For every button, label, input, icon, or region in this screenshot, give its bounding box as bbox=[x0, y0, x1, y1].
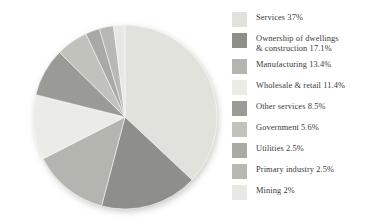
legend-swatch-icon bbox=[232, 101, 247, 116]
legend-item: Wholesale & retail 11.4% bbox=[232, 79, 375, 96]
legend-item-label: Manufacturing 13.4% bbox=[256, 58, 331, 70]
chart-legend: Services 37%Ownership of dwellings & con… bbox=[232, 0, 375, 222]
legend-item-label: Ownership of dwellings & construction 17… bbox=[256, 32, 339, 54]
pie-chart-svg bbox=[0, 0, 232, 222]
legend-swatch-icon bbox=[232, 122, 247, 137]
legend-swatch-icon bbox=[232, 59, 247, 74]
pie-chart-figure: Services 37%Ownership of dwellings & con… bbox=[0, 0, 375, 222]
legend-swatch-icon bbox=[232, 164, 247, 179]
legend-item-label: Services 37% bbox=[256, 11, 303, 23]
legend-item: Manufacturing 13.4% bbox=[232, 58, 375, 75]
legend-item-label: Mining 2% bbox=[256, 184, 295, 196]
legend-swatch-icon bbox=[232, 80, 247, 95]
pie-slice-group bbox=[33, 25, 217, 209]
pie-chart-plot-area bbox=[0, 0, 232, 222]
legend-item-label: Wholesale & retail 11.4% bbox=[256, 79, 345, 91]
legend-item-label: Utilities 2.5% bbox=[256, 142, 304, 154]
legend-swatch-icon bbox=[232, 143, 247, 158]
legend-item: Primary industry 2.5% bbox=[232, 163, 375, 180]
legend-swatch-icon bbox=[232, 185, 247, 200]
legend-item: Mining 2% bbox=[232, 184, 375, 201]
legend-swatch-icon bbox=[232, 33, 247, 48]
legend-item: Services 37% bbox=[232, 11, 375, 28]
legend-item: Other services 8.5% bbox=[232, 100, 375, 117]
legend-item: Government 5.6% bbox=[232, 121, 375, 138]
legend-item-label: Other services 8.5% bbox=[256, 100, 326, 112]
legend-item-label: Primary industry 2.5% bbox=[256, 163, 334, 175]
legend-item: Utilities 2.5% bbox=[232, 142, 375, 159]
legend-swatch-icon bbox=[232, 12, 247, 27]
legend-item-label: Government 5.6% bbox=[256, 121, 319, 133]
legend-item: Ownership of dwellings & construction 17… bbox=[232, 32, 375, 54]
